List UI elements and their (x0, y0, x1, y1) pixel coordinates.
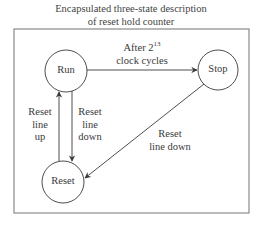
label-run-to-reset-line3: down (74, 131, 106, 144)
label-run-to-reset-line2: line (74, 119, 106, 132)
label-stop-to-reset-line1: Reset (135, 128, 205, 141)
label-exponent: 13 (154, 40, 161, 48)
label-run-to-stop-line1: After 213 (102, 42, 182, 55)
state-stop-label: Stop (198, 63, 238, 74)
label-stop-to-reset: Reset line down (135, 128, 205, 153)
label-reset-to-run-line1: Reset (22, 106, 58, 119)
label-run-to-reset: Reset line down (74, 106, 106, 144)
label-reset-to-run: Reset line up (22, 106, 58, 144)
label-run-to-stop-line2: clock cycles (102, 55, 182, 68)
state-reset-label: Reset (43, 175, 83, 186)
label-after-text: After 2 (123, 42, 153, 53)
label-stop-to-reset-line2: line down (135, 141, 205, 154)
label-run-to-stop: After 213 clock cycles (102, 42, 182, 67)
label-run-to-reset-line1: Reset (74, 106, 106, 119)
state-run-label: Run (46, 64, 86, 75)
label-reset-to-run-line2: line (22, 119, 58, 132)
label-reset-to-run-line3: up (22, 131, 58, 144)
